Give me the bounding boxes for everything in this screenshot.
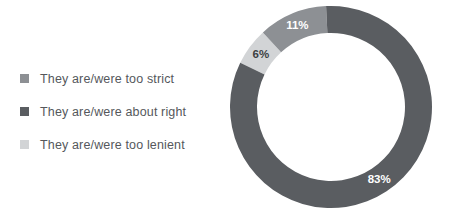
donut-slice-label: 11%	[286, 19, 308, 31]
legend-label-strict: They are/were too strict	[40, 72, 174, 86]
donut-svg: 6%11%83%	[228, 2, 434, 214]
legend-swatch-strict	[20, 74, 29, 83]
legend-swatch-lenient	[20, 140, 29, 149]
legend-item-strict[interactable]: They are/were too strict	[20, 62, 220, 95]
chart-legend: They are/were too strict They are/were a…	[20, 62, 220, 161]
donut-slice-label: 6%	[253, 48, 270, 60]
donut-slices	[230, 6, 432, 208]
legend-item-lenient[interactable]: They are/were too lenient	[20, 128, 220, 161]
donut-chart-figure: They are/were too strict They are/were a…	[0, 0, 462, 216]
donut-slice-label: 83%	[368, 173, 391, 185]
legend-swatch-about-right	[20, 107, 29, 116]
legend-label-lenient: They are/were too lenient	[40, 138, 185, 152]
donut-chart: 6%11%83%	[228, 2, 434, 214]
legend-item-about-right[interactable]: They are/were about right	[20, 95, 220, 128]
legend-label-about-right: They are/were about right	[40, 105, 186, 119]
